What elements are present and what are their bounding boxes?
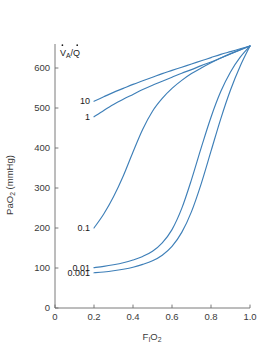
- y-tick-label: 100: [34, 262, 50, 273]
- y-tick-label: 500: [34, 102, 50, 113]
- x-tick-label: 0.6: [165, 311, 178, 322]
- y-tick-label: 200: [34, 222, 50, 233]
- svg-text:VA/Q: VA/Q: [60, 48, 80, 59]
- y-tick-label: 300: [34, 182, 50, 193]
- q-dot-icon: [76, 44, 78, 46]
- curve-label-1: 1: [85, 112, 90, 122]
- x-tick-label: 0.8: [204, 311, 217, 322]
- pao2-fio2-line-chart: 0100200300400500600 00.20.40.60.81.0 101…: [0, 0, 275, 346]
- curve-label-0_1: 0.1: [77, 223, 90, 233]
- v-dot-icon: [62, 44, 64, 46]
- x-tick-label: 0: [52, 311, 57, 322]
- y-tick-label: 400: [34, 142, 50, 153]
- chart-figure: 0100200300400500600 00.20.40.60.81.0 101…: [0, 0, 275, 346]
- y-tick-label: 0: [45, 302, 50, 313]
- x-tick-label: 0.4: [126, 311, 139, 322]
- svg-text:PaO2 (mmHg): PaO2 (mmHg): [4, 155, 16, 215]
- curve-label-0_001: 0.001: [67, 268, 90, 278]
- x-tick-label: 0.2: [87, 311, 100, 322]
- y-tick-label: 600: [34, 62, 50, 73]
- curve-label-10: 10: [80, 96, 90, 106]
- y-axis-title: PaO2 (mmHg): [4, 155, 16, 215]
- x-tick-label: 1.0: [243, 311, 256, 322]
